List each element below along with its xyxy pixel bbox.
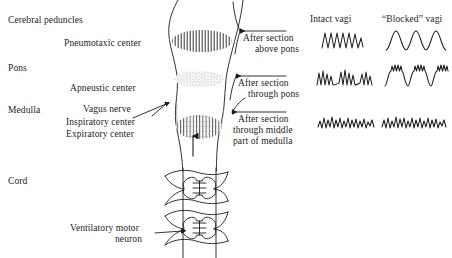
- trace-above-pons-intact: [322, 33, 363, 48]
- section-caption-above-pons-line1: After section: [243, 33, 294, 44]
- trace-through-medulla-blocked: [382, 117, 446, 128]
- section-caption-through-pons-line1: After section: [238, 78, 289, 89]
- label-pons: Pons: [8, 63, 27, 74]
- trace-column-header-intact-vagi: Intact vagi: [310, 14, 351, 25]
- trace-through-pons-blocked: [385, 65, 448, 86]
- label-ventilatory-motor-neuron-line1: Ventilatory motor: [70, 223, 139, 234]
- label-apneustic-center: Apneustic center: [70, 83, 136, 94]
- cord-segment-upper: [165, 170, 228, 205]
- cord-segment-lower: [165, 210, 228, 245]
- section-caption-through-medulla-line3: part of medulla: [233, 136, 293, 147]
- label-medulla: Medulla: [8, 105, 40, 116]
- apneustic-center-nucleus: [172, 70, 228, 90]
- label-inspiratory-center: Inspiratory center: [66, 117, 135, 128]
- section-caption-through-pons-line2: through pons: [248, 89, 299, 100]
- label-cord: Cord: [8, 176, 27, 187]
- section-cut-through-medulla: [232, 98, 245, 112]
- section-cut-through-pons: [230, 76, 236, 100]
- figure-canvas: Cerebral peduncles Pons Medulla Cord Pne…: [0, 0, 452, 258]
- label-vagus-nerve: Vagus nerve: [83, 104, 131, 115]
- trace-above-pons-blocked: [386, 31, 446, 50]
- section-caption-through-medulla-line1: After section: [238, 114, 289, 125]
- vagus-nerve-leader: [133, 104, 166, 118]
- section-caption-above-pons-line2: above pons: [255, 44, 299, 55]
- trace-through-pons-intact: [317, 70, 372, 85]
- label-expiratory-center: Expiratory center: [66, 129, 134, 140]
- trace-column-header-blocked-vagi: “Blocked” vagi: [382, 14, 442, 25]
- section-caption-through-medulla-line2: through middle: [233, 125, 293, 136]
- label-ventilatory-motor-neuron-line2: neuron: [115, 234, 142, 245]
- label-cerebral-peduncles: Cerebral peduncles: [8, 15, 83, 26]
- trace-through-medulla-intact: [318, 117, 374, 128]
- brainstem-outline-left: [169, 0, 183, 171]
- label-pneumotaxic-center: Pneumotaxic center: [64, 38, 141, 49]
- pneumotaxic-center-nucleus: [170, 28, 236, 54]
- vagus-nerve-leader-tick: [152, 104, 166, 116]
- section-cut-above-pons: [233, 2, 240, 31]
